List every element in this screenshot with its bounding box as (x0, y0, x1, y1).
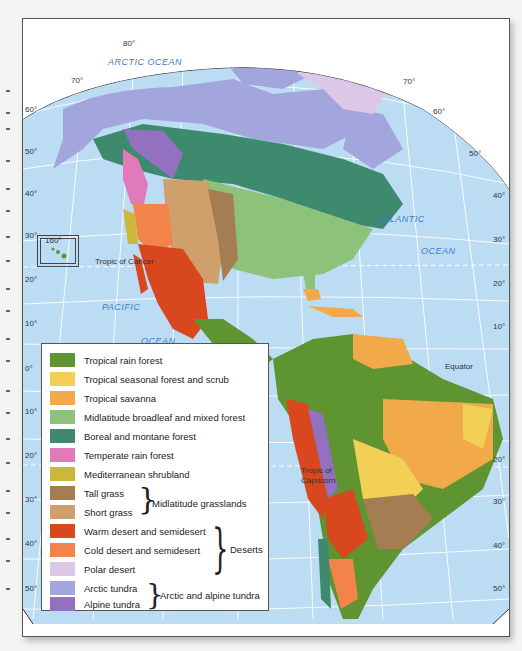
lat-right-60: 60° (433, 107, 445, 116)
legend-item-alpine-tundra: Alpine tundra (50, 597, 140, 611)
swatch-tropical-rain-forest (50, 353, 75, 367)
lat-left-20: 20° (25, 275, 37, 284)
lat-left-s20: 20° (25, 451, 37, 460)
swatch-arctic-tundra (50, 581, 75, 595)
lat-right-20: 20° (493, 279, 505, 288)
lat-right-50: 50° (469, 149, 481, 158)
lat-left-s50: 50° (25, 584, 37, 593)
inset-longitude-label: 160° (45, 236, 62, 245)
legend-item-temperate-rain-forest: Temperate rain forest (50, 448, 174, 462)
lat-left-s30: 30° (25, 495, 37, 504)
lat-left-60: 60° (25, 105, 37, 114)
swatch-tall-grass (50, 486, 75, 500)
lat-right-30: 30° (493, 235, 505, 244)
lat-left-s40: 40° (25, 539, 37, 548)
lat-label-70-right: 70° (403, 77, 415, 86)
lat-left-s10: 10° (25, 407, 37, 416)
group-label-deserts: Deserts (230, 544, 263, 555)
legend-item-tropical-savanna: Tropical savanna (50, 391, 156, 405)
legend-item-short-grass: Short grass (50, 505, 133, 519)
tropic-of-capricorn-label-2: Capricorn (301, 476, 336, 485)
lat-left-40: 40° (25, 189, 37, 198)
lat-right-s30: 30° (493, 497, 505, 506)
legend: Tropical rain forest Tropical seasonal f… (41, 343, 269, 611)
legend-item-polar-desert: Polar desert (50, 562, 135, 576)
lat-left-30: 30° (25, 231, 37, 240)
lat-right-10: 10° (493, 322, 505, 331)
swatch-alpine-tundra (50, 597, 75, 611)
legend-item-warm-desert: Warm desert and semidesert (50, 524, 206, 538)
atlantic-ocean-label-2: OCEAN (421, 246, 456, 256)
legend-item-boreal: Boreal and montane forest (50, 429, 196, 443)
tropic-of-cancer-label: Tropic of Cancer (95, 257, 154, 266)
equator-label: Equator (445, 362, 473, 371)
legend-item-arctic-tundra: Arctic tundra (50, 581, 137, 595)
swatch-mediterranean (50, 467, 75, 481)
atlantic-ocean-label: ATLANTIC (378, 214, 425, 224)
lat-left-10: 10° (25, 319, 37, 328)
lat-right-s40: 40° (493, 541, 505, 550)
swatch-boreal (50, 429, 75, 443)
swatch-tropical-savanna (50, 391, 75, 405)
lat-right-40: 40° (493, 191, 505, 200)
arctic-ocean-label: ARCTIC OCEAN (108, 57, 182, 67)
lat-label-80: 80° (123, 39, 135, 48)
lat-label-70-left: 70° (71, 76, 83, 85)
page-margin-text-fragments (0, 60, 18, 620)
legend-item-cold-desert: Cold desert and semidesert (50, 543, 200, 557)
legend-item-tropical-rain-forest: Tropical rain forest (50, 353, 162, 367)
map-frame: 80° 70° 70° ARCTIC OCEAN ATLANTIC OCEAN … (22, 18, 510, 637)
group-label-grasslands: Midlatitude grasslands (152, 498, 247, 509)
swatch-warm-desert (50, 524, 75, 538)
legend-item-mediterranean: Mediterranean shrubland (50, 467, 190, 481)
pacific-ocean-label: PACIFIC (102, 302, 140, 312)
legend-item-tropical-seasonal: Tropical seasonal forest and scrub (50, 372, 229, 386)
swatch-polar-desert (50, 562, 75, 576)
lat-right-s50: 50° (493, 584, 505, 593)
swatch-temperate-rain-forest (50, 448, 75, 462)
swatch-tropical-seasonal (50, 372, 75, 386)
group-label-tundra: Arctic and alpine tundra (160, 590, 260, 601)
brace-deserts-icon: } (212, 520, 229, 576)
lat-left-50: 50° (25, 147, 37, 156)
legend-item-tall-grass: Tall grass (50, 486, 124, 500)
swatch-cold-desert (50, 543, 75, 557)
legend-item-midlatitude-broadleaf: Midlatitude broadleaf and mixed forest (50, 410, 245, 424)
swatch-midlatitude-broadleaf (50, 410, 75, 424)
tropic-of-capricorn-label: Tropic of (301, 466, 332, 475)
lat-right-s20: 20° (493, 455, 505, 464)
swatch-short-grass (50, 505, 75, 519)
lat-left-0: 0° (25, 364, 33, 373)
